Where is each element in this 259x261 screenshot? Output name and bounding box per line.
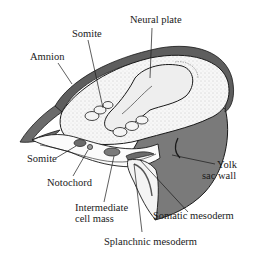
label-neural-plate: Neural plate <box>130 15 182 25</box>
leader-amnion <box>58 63 72 84</box>
somite-section <box>74 140 86 147</box>
label-somite-left: Somite <box>27 154 57 164</box>
label-yolk-line1: Yolk <box>217 160 237 170</box>
label-notochord: Notochord <box>47 178 92 188</box>
label-amnion: Amnion <box>30 52 64 62</box>
label-somite-top: Somite <box>72 29 102 39</box>
notochord <box>87 144 92 149</box>
embryo-diagram <box>0 0 259 261</box>
label-yolk-line2: sac wall <box>202 171 236 181</box>
label-somatic-mesoderm: Somatic mesoderm <box>153 211 234 221</box>
label-intermediate-line1: Intermediate <box>75 203 128 213</box>
intermediate-cell-mass <box>104 148 120 156</box>
label-splanchnic-mesoderm: Splanchnic mesoderm <box>104 237 197 247</box>
label-intermediate-line2: cell mass <box>75 214 114 224</box>
